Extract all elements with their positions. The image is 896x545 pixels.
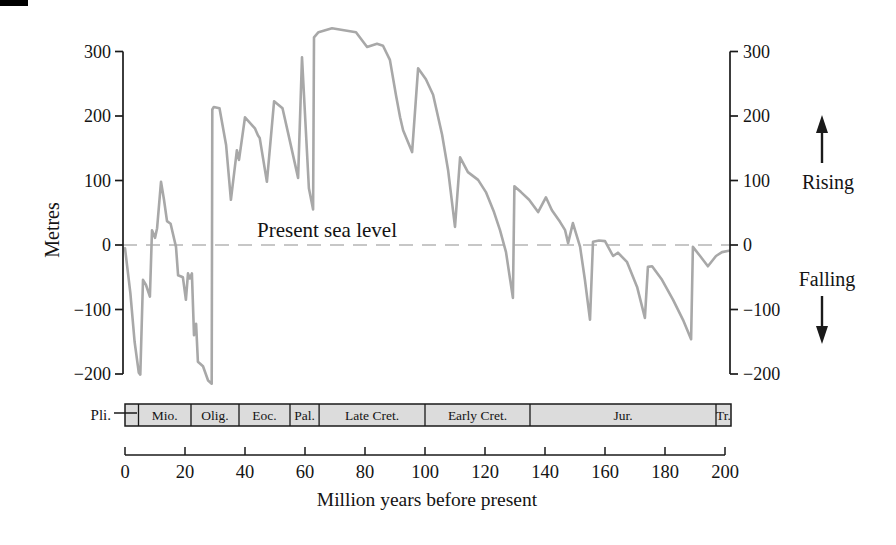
sea-level-chart: 30030020020010010000−100−100−200−200Mio.… [0, 0, 896, 545]
x-tick-label: 20 [176, 462, 195, 482]
pliocene-label: Pli. [91, 407, 111, 423]
x-tick-label: 200 [711, 462, 739, 482]
x-tick-label: 80 [356, 462, 375, 482]
y-tick-label-left: −200 [74, 364, 111, 384]
x-tick-label: 0 [120, 462, 129, 482]
x-tick-label: 140 [531, 462, 559, 482]
band-cell-label: Olig. [201, 408, 228, 423]
chart-generated-layers: 30030020020010010000−100−100−200−200Mio.… [74, 28, 828, 482]
band-cell-label: Early Cret. [448, 408, 507, 423]
y-tick-label-left: 0 [102, 235, 111, 255]
x-axis-title: Million years before present [317, 489, 538, 510]
band-cell-label: Mio. [152, 408, 178, 423]
y-tick-label-left: 200 [84, 106, 111, 126]
y-tick-label-right: −100 [743, 300, 780, 320]
falling-arrow-head [816, 326, 828, 344]
y-tick-label-right: 0 [743, 235, 752, 255]
x-tick-label: 40 [236, 462, 255, 482]
rising-arrow-head [816, 115, 828, 133]
y-tick-label-left: 300 [84, 42, 111, 62]
x-tick-label: 60 [296, 462, 315, 482]
y-tick-label-left: −100 [74, 300, 111, 320]
sea-level-figure: 30030020020010010000−100−100−200−200Mio.… [0, 0, 896, 545]
band-cell-label: Tr. [716, 408, 731, 423]
present-sea-level-label: Present sea level [257, 218, 397, 242]
rising-label: Rising [802, 171, 854, 194]
falling-label: Falling [799, 268, 856, 291]
y-tick-label-right: 100 [743, 171, 770, 191]
band-cell-label: Jur. [613, 408, 632, 423]
x-tick-label: 120 [471, 462, 499, 482]
band-cell-label: Late Cret. [345, 408, 399, 423]
x-tick-label: 100 [411, 462, 439, 482]
sea-level-curve [125, 28, 729, 383]
x-tick-label: 160 [591, 462, 619, 482]
y-tick-label-right: −200 [743, 364, 780, 384]
band-cell-label: Pal. [294, 408, 315, 423]
y-axis-title: Metres [41, 202, 63, 258]
y-tick-label-right: 300 [743, 42, 770, 62]
band-cell-label: Eoc. [252, 408, 276, 423]
y-tick-label-left: 100 [84, 171, 111, 191]
x-tick-label: 180 [651, 462, 679, 482]
y-tick-label-right: 200 [743, 106, 770, 126]
